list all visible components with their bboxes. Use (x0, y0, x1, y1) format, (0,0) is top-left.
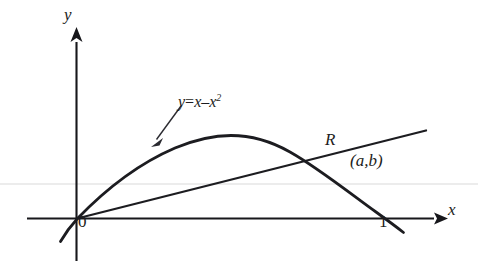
equation-leader-arrow (151, 106, 181, 147)
origin-label: 0 (78, 213, 87, 230)
equation-equals: = (185, 93, 194, 110)
curve-equation-label: y=x–x2 (178, 93, 221, 110)
equation-x-squared-exponent: 2 (216, 92, 221, 103)
x-axis-label: x (448, 201, 456, 218)
math-figure-canvas: y x 0 1 R (a,b) y=x–x2 (0, 0, 478, 268)
graph-svg (0, 0, 478, 268)
y-axis-arrowhead (71, 27, 83, 42)
leader-arrow-shaft (157, 106, 182, 140)
point-label-r: R (325, 131, 335, 148)
y-axis-label: y (64, 6, 72, 23)
scan-artifact-line (0, 183, 478, 185)
point-coordinates-label: (a,b) (350, 152, 383, 169)
x-tick-label-one: 1 (379, 213, 388, 230)
x-axis-arrowhead (434, 213, 448, 225)
